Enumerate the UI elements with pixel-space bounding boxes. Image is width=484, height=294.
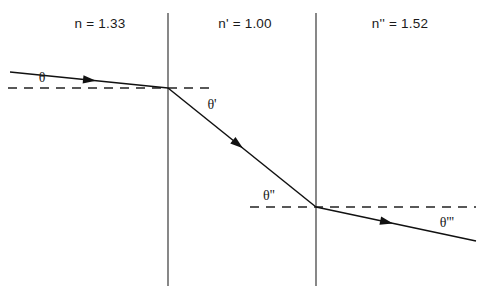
optics-refraction-diagram: n = 1.33 n' = 1.00 n'' = 1.52 θ θ' θ'' θ… xyxy=(0,0,484,294)
angle-label-theta-double-prime: θ'' xyxy=(263,188,275,203)
diagram-canvas: n = 1.33 n' = 1.00 n'' = 1.52 θ θ' θ'' θ… xyxy=(0,0,484,294)
angle-label-theta-triple-prime: θ''' xyxy=(440,215,454,230)
medium-label-2: n' = 1.00 xyxy=(218,16,272,31)
arrowhead-incident-ray xyxy=(83,75,97,85)
angle-label-theta: θ xyxy=(39,70,46,85)
medium-label-3: n'' = 1.52 xyxy=(372,16,428,31)
arrowhead-exit-ray xyxy=(379,217,393,228)
medium-label-1: n = 1.33 xyxy=(75,16,126,31)
angle-label-theta-prime: θ' xyxy=(207,97,216,112)
